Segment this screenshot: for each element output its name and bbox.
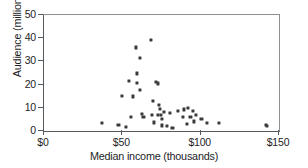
data-point: [205, 122, 208, 125]
x-tick-mark: [43, 130, 44, 135]
data-point: [121, 95, 124, 98]
data-point: [117, 123, 120, 126]
data-point: [131, 95, 134, 98]
data-point: [125, 126, 128, 129]
data-point: [185, 122, 188, 125]
data-point: [149, 39, 152, 42]
y-tick-mark: [38, 14, 43, 15]
data-point: [169, 112, 172, 115]
data-point: [128, 80, 131, 83]
x-tick-mark: [200, 130, 201, 135]
data-point: [151, 99, 154, 102]
data-point: [200, 117, 203, 120]
scatter-plot-figure: Audience (millions) Median income (thous…: [0, 0, 308, 168]
plot-area: [43, 14, 280, 132]
data-point: [165, 125, 168, 128]
x-tick-label: $50: [113, 137, 130, 148]
data-point: [159, 113, 162, 116]
data-point: [156, 82, 159, 85]
data-point: [142, 115, 145, 118]
x-tick-label: $0: [37, 137, 48, 148]
y-tick-mark: [38, 84, 43, 85]
data-point: [136, 81, 139, 84]
data-point: [171, 127, 174, 130]
data-point: [187, 106, 190, 109]
data-point: [158, 103, 161, 106]
x-tick-mark: [278, 130, 279, 135]
y-tick-label: 40: [0, 32, 36, 43]
data-point: [162, 110, 165, 113]
y-tick-label: 50: [0, 9, 36, 20]
data-point: [191, 110, 194, 113]
y-tick-label: 20: [0, 78, 36, 89]
data-point: [134, 46, 137, 49]
data-point: [100, 122, 103, 125]
data-point: [193, 120, 196, 123]
x-axis-title: Median income (thousands): [0, 151, 308, 162]
data-point: [136, 72, 139, 75]
data-point: [129, 115, 132, 118]
y-tick-mark: [38, 107, 43, 108]
data-point: [181, 116, 184, 119]
x-tick-label: $150: [267, 137, 290, 148]
data-point: [176, 109, 179, 112]
data-point: [217, 122, 220, 125]
data-point: [189, 116, 192, 119]
y-tick-label: 0: [0, 125, 36, 136]
data-points-layer: [44, 15, 279, 131]
y-tick-mark: [38, 60, 43, 61]
data-point: [160, 118, 163, 121]
x-tick-mark: [121, 130, 122, 135]
data-point: [161, 124, 164, 127]
data-point: [266, 125, 269, 128]
data-point: [138, 56, 141, 59]
data-point: [183, 108, 186, 111]
y-tick-label: 30: [0, 55, 36, 66]
data-point: [152, 121, 155, 124]
y-tick-label: 10: [0, 102, 36, 113]
data-point: [151, 113, 154, 116]
y-tick-mark: [38, 37, 43, 38]
data-point: [194, 114, 197, 117]
data-point: [158, 107, 161, 110]
data-point: [139, 89, 142, 92]
x-tick-label: $100: [188, 137, 211, 148]
